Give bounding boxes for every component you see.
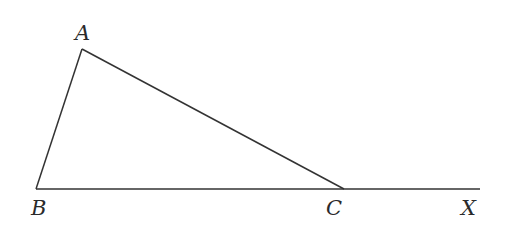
triangle-diagram: A B C X xyxy=(0,0,507,235)
label-c: C xyxy=(326,196,342,220)
segment-ab xyxy=(36,49,82,189)
label-b: B xyxy=(30,196,46,220)
label-a: A xyxy=(73,21,90,45)
segment-ac xyxy=(82,49,344,189)
label-x: X xyxy=(459,196,477,220)
